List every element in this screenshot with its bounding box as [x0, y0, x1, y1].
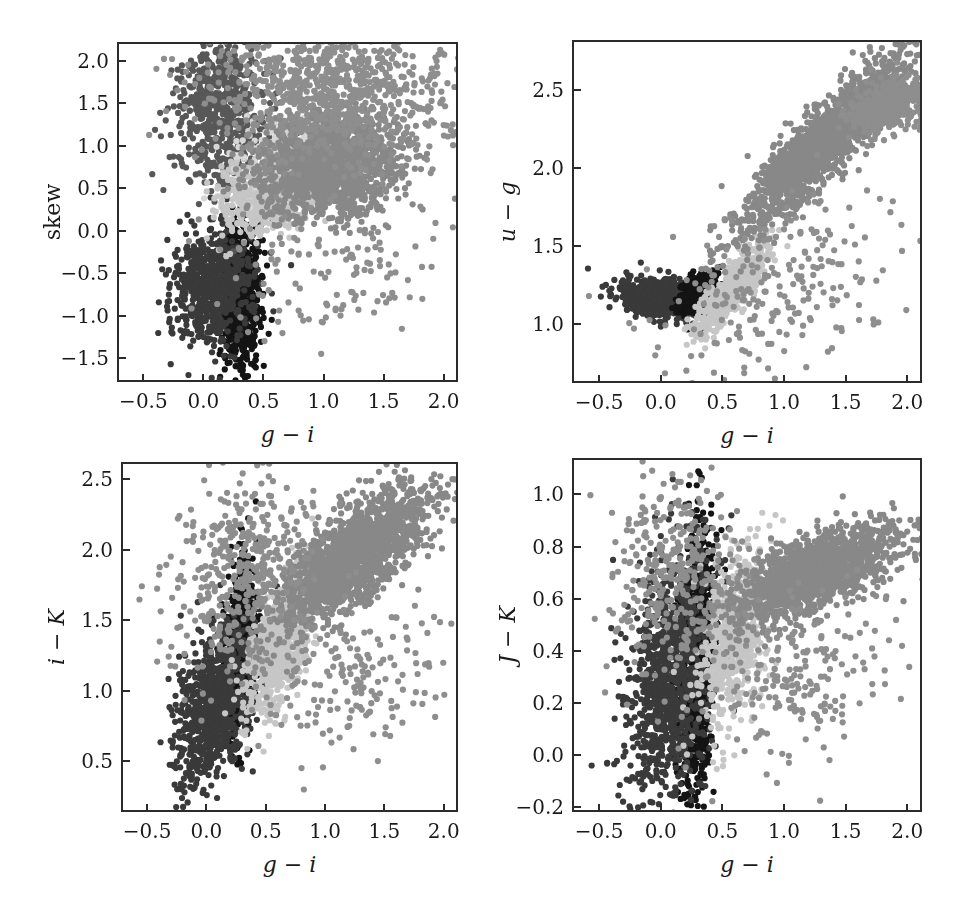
y-tick-panel-i-K-2: [123, 619, 130, 621]
x-tick-panel-skew-5: [443, 374, 445, 381]
x-ticklabel-panel-skew-5: 2.0: [428, 391, 460, 411]
x-tick-panel-J-K-0: [598, 804, 600, 811]
y-ticklabel-panel-i-K-4: 2.5: [63, 469, 113, 489]
figure-canvas: −0.50.00.51.01.52.0−1.5−1.0−0.50.00.51.0…: [0, 0, 961, 904]
y-ticklabel-panel-i-K-2: 1.5: [63, 610, 113, 630]
y-ticklabel-panel-skew-6: 1.5: [59, 93, 109, 113]
x-tick-panel-skew-3: [323, 374, 325, 381]
y-ticklabel-panel-u-g-0: 1.0: [514, 314, 564, 334]
y-tick-panel-J-K-6: [574, 493, 581, 495]
x-tick-panel-u-g-0: [598, 375, 600, 382]
y-ticklabel-panel-u-g-3: 2.5: [514, 80, 564, 100]
x-ticklabel-panel-i-K-5: 2.0: [428, 821, 460, 841]
x-ticklabel-panel-u-g-3: 1.0: [768, 392, 800, 412]
y-ticklabel-panel-J-K-2: 0.2: [514, 693, 564, 713]
scatter-points-panel-i-K: [123, 464, 458, 812]
scatter-points-panel-J-K: [574, 460, 922, 812]
x-ticklabel-panel-J-K-5: 2.0: [891, 821, 923, 841]
y-ticklabel-panel-skew-7: 2.0: [59, 51, 109, 71]
y-axis-label-panel-i-K: i − K: [46, 597, 68, 677]
x-ticklabel-panel-i-K-4: 1.5: [369, 821, 401, 841]
y-tick-panel-skew-2: [119, 272, 126, 274]
scatter-points-panel-u-g: [574, 42, 922, 383]
x-tick-panel-u-g-1: [660, 375, 662, 382]
y-tick-panel-J-K-2: [574, 702, 581, 704]
x-tick-panel-skew-1: [202, 374, 204, 381]
y-tick-panel-skew-4: [119, 187, 126, 189]
plot-area-panel-i-K: [121, 462, 458, 812]
x-tick-panel-J-K-2: [721, 804, 723, 811]
y-axis-label-panel-u-g: u − g: [497, 172, 519, 252]
plot-area-panel-u-g: [572, 40, 922, 383]
x-tick-panel-i-K-3: [324, 804, 326, 811]
y-tick-panel-skew-1: [119, 315, 126, 317]
x-tick-panel-i-K-4: [383, 804, 385, 811]
x-tick-panel-u-g-2: [721, 375, 723, 382]
x-axis-label-panel-J-K: g − i: [720, 854, 774, 876]
y-tick-panel-u-g-1: [574, 245, 581, 247]
x-ticklabel-panel-J-K-0: −0.5: [575, 821, 624, 841]
x-tick-panel-i-K-0: [146, 804, 148, 811]
x-ticklabel-panel-i-K-3: 1.0: [309, 821, 341, 841]
y-tick-panel-u-g-2: [574, 167, 581, 169]
x-tick-panel-u-g-4: [845, 375, 847, 382]
y-ticklabel-panel-J-K-5: 0.8: [514, 537, 564, 557]
y-tick-panel-skew-5: [119, 145, 126, 147]
y-tick-panel-i-K-4: [123, 478, 130, 480]
x-axis-label-panel-i-K: g − i: [263, 854, 317, 876]
y-ticklabel-panel-skew-5: 1.0: [59, 136, 109, 156]
x-ticklabel-panel-J-K-2: 0.5: [706, 821, 738, 841]
y-tick-panel-J-K-3: [574, 650, 581, 652]
x-ticklabel-panel-J-K-1: 0.0: [645, 821, 677, 841]
y-ticklabel-panel-skew-1: −1.0: [59, 306, 109, 326]
x-tick-panel-i-K-5: [443, 804, 445, 811]
y-ticklabel-panel-u-g-2: 2.0: [514, 158, 564, 178]
y-ticklabel-panel-i-K-1: 1.0: [63, 681, 113, 701]
y-tick-panel-J-K-5: [574, 546, 581, 548]
x-ticklabel-panel-i-K-1: 0.0: [191, 821, 223, 841]
x-ticklabel-panel-skew-2: 0.5: [248, 391, 280, 411]
x-ticklabel-panel-skew-3: 1.0: [308, 391, 340, 411]
y-tick-panel-i-K-1: [123, 690, 130, 692]
y-ticklabel-panel-skew-2: −0.5: [59, 263, 109, 283]
y-tick-panel-i-K-3: [123, 549, 130, 551]
x-tick-panel-skew-4: [383, 374, 385, 381]
x-tick-panel-u-g-3: [783, 375, 785, 382]
x-tick-panel-skew-2: [262, 374, 264, 381]
x-tick-panel-J-K-1: [660, 804, 662, 811]
x-ticklabel-panel-u-g-2: 0.5: [706, 392, 738, 412]
plot-area-panel-J-K: [572, 458, 922, 812]
y-ticklabel-panel-i-K-0: 0.5: [63, 751, 113, 771]
y-ticklabel-panel-J-K-6: 1.0: [514, 484, 564, 504]
y-ticklabel-panel-skew-0: −1.5: [59, 348, 109, 368]
x-ticklabel-panel-i-K-0: −0.5: [123, 821, 172, 841]
y-ticklabel-panel-J-K-1: 0.0: [514, 745, 564, 765]
x-tick-panel-u-g-5: [906, 375, 908, 382]
x-ticklabel-panel-u-g-1: 0.0: [645, 392, 677, 412]
x-ticklabel-panel-skew-1: 0.0: [188, 391, 220, 411]
y-ticklabel-panel-skew-3: 0.0: [59, 221, 109, 241]
y-tick-panel-skew-6: [119, 102, 126, 104]
y-tick-panel-i-K-0: [123, 760, 130, 762]
x-tick-panel-J-K-5: [906, 804, 908, 811]
y-tick-panel-J-K-0: [574, 806, 581, 808]
y-tick-panel-skew-7: [119, 60, 126, 62]
x-ticklabel-panel-u-g-4: 1.5: [830, 392, 862, 412]
x-ticklabel-panel-i-K-2: 0.5: [250, 821, 282, 841]
x-axis-label-panel-skew: g − i: [261, 424, 315, 446]
x-ticklabel-panel-u-g-5: 2.0: [891, 392, 923, 412]
y-ticklabel-panel-J-K-3: 0.4: [514, 641, 564, 661]
x-tick-panel-J-K-4: [845, 804, 847, 811]
y-ticklabel-panel-u-g-1: 1.5: [514, 236, 564, 256]
y-ticklabel-panel-J-K-4: 0.6: [514, 589, 564, 609]
x-tick-panel-skew-0: [142, 374, 144, 381]
y-tick-panel-skew-0: [119, 357, 126, 359]
x-tick-panel-i-K-1: [205, 804, 207, 811]
y-ticklabel-panel-i-K-3: 2.0: [63, 540, 113, 560]
y-axis-label-panel-J-K: J − K: [497, 595, 519, 675]
plot-area-panel-skew: [117, 42, 458, 382]
x-ticklabel-panel-u-g-0: −0.5: [575, 392, 624, 412]
y-ticklabel-panel-skew-4: 0.5: [59, 178, 109, 198]
y-tick-panel-J-K-1: [574, 754, 581, 756]
y-tick-panel-skew-3: [119, 230, 126, 232]
